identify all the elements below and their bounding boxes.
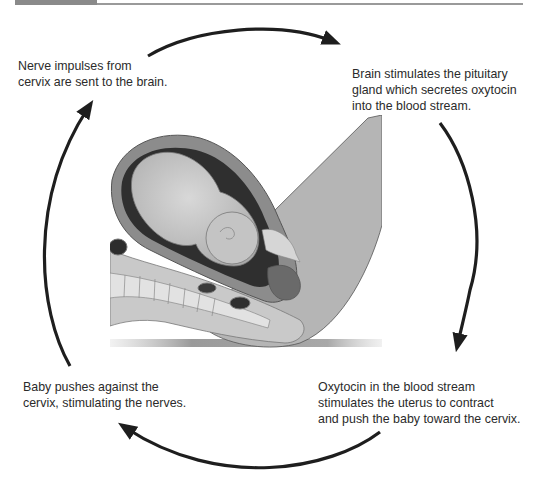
arrow-bottom-icon — [126, 428, 380, 468]
step-label-nerve-impulses: Nerve impulses from cervix are sent to t… — [18, 58, 218, 90]
step-label-oxytocin: Oxytocin in the blood stream stimulates … — [318, 379, 540, 427]
step-label-brain-stimulates: Brain stimulates the pituitary gland whi… — [352, 66, 540, 114]
arrow-right-icon — [440, 123, 477, 343]
arrow-top-icon — [148, 29, 332, 56]
step-label-baby-pushes: Baby pushes against the cervix, stimulat… — [23, 379, 223, 411]
arrow-left-icon — [44, 108, 88, 366]
